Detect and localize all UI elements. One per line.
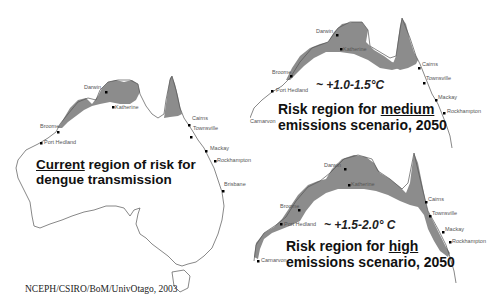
city-label-townsville: Townsville	[193, 126, 218, 132]
current-risk-map: Darwin Katherine Broome Port Hedland Cai…	[0, 0, 250, 306]
city-label-cairns: Cairns	[428, 197, 444, 203]
city-label-cairns: Cairns	[192, 116, 208, 122]
high-map-caption: Risk region for high emissions scenario,…	[286, 239, 455, 270]
city-label-port-hedland: Port Hedland	[44, 140, 76, 146]
caption-emphasis: high	[389, 238, 419, 254]
city-label-cairns: Cairns	[422, 62, 438, 68]
caption-emphasis: Current	[36, 157, 85, 172]
caption-line-2: emissions scenario, 2050	[286, 255, 455, 271]
city-label-port-hedland: Port Hedland	[276, 88, 308, 94]
medium-map-caption: Risk region for medium emissions scenari…	[278, 102, 447, 133]
high-risk-map: Darwin Katherine Broome Port Hedland Car…	[250, 153, 499, 306]
city-label-katherine: Katherine	[343, 47, 367, 53]
source-credit: NCEPH/CSIRO/BoM/UnivOtago, 2003	[25, 284, 178, 294]
city-label-darwin: Darwin	[316, 29, 333, 35]
city-label-townsville: Townsville	[432, 211, 457, 217]
caption-line-1: Current region of risk for	[36, 157, 196, 172]
city-label-broome: Broome	[280, 204, 299, 210]
city-label-katherine: Katherine	[351, 182, 375, 188]
city-label-mackay: Mackay	[210, 146, 229, 152]
city-label-darwin: Darwin	[324, 163, 341, 169]
caption-line-1: Risk region for high	[286, 239, 455, 255]
high-temperature-label: ~ +1.5-2.0° C	[324, 218, 396, 232]
city-label-mackay: Mackay	[438, 95, 457, 101]
city-label-broome: Broome	[40, 124, 59, 130]
caption-line-2: dengue transmission	[36, 172, 196, 187]
caption-prefix: Risk region for	[286, 238, 389, 254]
city-label-townsville: Townsville	[426, 76, 451, 82]
city-label-darwin: Darwin	[84, 85, 101, 91]
city-label-carnarvon: Carnarvon	[250, 119, 276, 125]
city-label-rockhampton: Rockhampton	[447, 109, 481, 115]
city-label-rockhampton: Rockhampton	[452, 239, 486, 245]
medium-risk-map: Darwin Katherine Broome Port Hedland Car…	[250, 0, 499, 153]
australia-outline-current	[0, 0, 250, 306]
medium-temperature-label: ~ +1.0-1.5°C	[316, 78, 384, 92]
city-label-port-hedland: Port Hedland	[284, 222, 316, 228]
caption-prefix: Risk region for	[278, 101, 381, 117]
current-map-caption: Current region of risk for dengue transm…	[36, 157, 196, 187]
caption-emphasis: medium	[381, 101, 435, 117]
caption-line-1-rest: region of risk for	[85, 157, 196, 172]
city-label-mackay: Mackay	[445, 227, 464, 233]
city-label-rockhampton: Rockhampton	[217, 158, 251, 164]
city-label-broome: Broome	[272, 70, 291, 76]
caption-line-2: emissions scenario, 2050	[278, 118, 447, 134]
city-label-katherine: Katherine	[115, 105, 139, 111]
city-label-brisbane: Brisbane	[224, 182, 246, 188]
city-label-carnarvon: Carnarvon	[261, 258, 287, 264]
caption-line-1: Risk region for medium	[278, 102, 447, 118]
